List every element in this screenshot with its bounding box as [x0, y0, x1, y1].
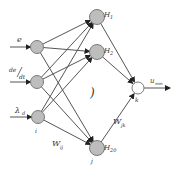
ellipsis-mark: ): [89, 86, 95, 100]
input-label-dedt: de dt: [9, 66, 26, 80]
svg-text:1: 1: [110, 14, 113, 20]
svg-text:d: d: [22, 110, 25, 116]
hidden-layer-label: j: [89, 157, 93, 165]
output-signal-label: u mm: [150, 77, 163, 86]
weight-label-jk: W jk: [113, 117, 126, 129]
hidden-node-h1: [90, 10, 105, 25]
input-layer-label: i: [35, 127, 37, 134]
edge-e-h1: [37, 20, 90, 47]
edge-lambda-h1: [38, 23, 93, 117]
edge-e-h2: [37, 47, 90, 51]
hidden-node-h2: [90, 45, 105, 60]
edge-lambda-h2: [38, 58, 92, 117]
output-node-k: [132, 82, 144, 94]
svg-text:de: de: [9, 66, 17, 73]
neural-network-diagram: e de dt λ d i H 1 H 2 H 20 j ) k u mm W …: [0, 0, 179, 174]
svg-text:dt: dt: [19, 73, 26, 80]
hidden-label-h2: H 2: [103, 47, 113, 56]
svg-text:jk: jk: [120, 122, 126, 129]
input-node-dedt: [31, 76, 44, 89]
edge-e-h20: [37, 47, 93, 142]
hidden-label-h20: H 20: [103, 144, 117, 153]
edge-dedt-h20: [37, 82, 92, 142]
svg-text:mm: mm: [155, 81, 163, 86]
hidden-node-h20: [90, 141, 105, 156]
svg-text:ij: ij: [60, 144, 64, 151]
input-label-e: e: [17, 35, 22, 44]
input-node-e: [31, 41, 44, 54]
input-label-lambda: λ d: [14, 106, 25, 116]
input-node-lambda: [32, 111, 45, 124]
weight-label-ij: W ij: [52, 139, 64, 151]
svg-text:20: 20: [109, 147, 117, 153]
output-node-label: k: [135, 96, 139, 103]
hidden-label-h1: H 1: [103, 11, 113, 20]
edge-lambda-h20: [38, 117, 90, 145]
svg-text:λ: λ: [14, 106, 20, 115]
nodes: [31, 10, 145, 156]
svg-text:2: 2: [109, 50, 113, 56]
